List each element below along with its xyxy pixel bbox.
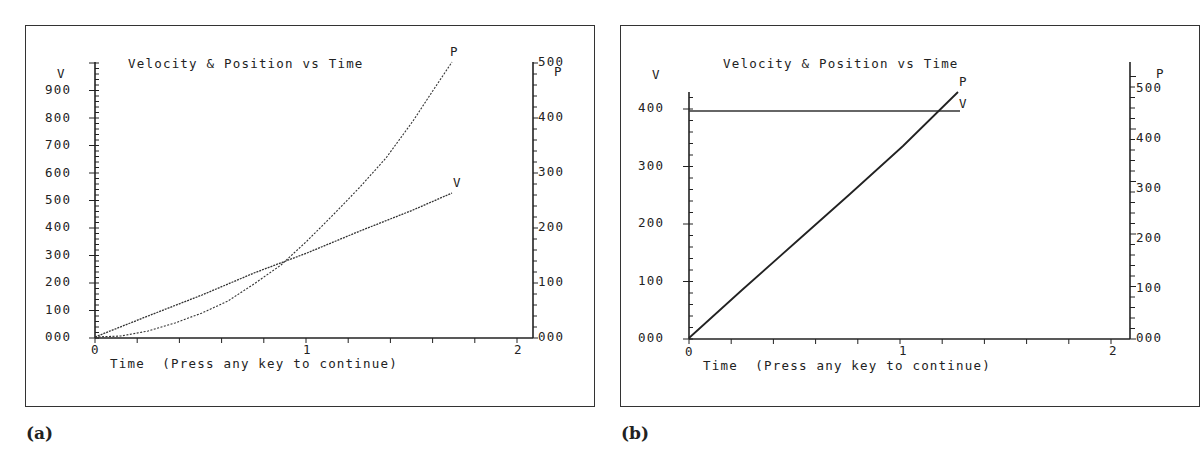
tick-label: 300 xyxy=(538,164,564,179)
tick-label: 2 xyxy=(514,342,523,357)
tick-label: 800 xyxy=(45,110,71,125)
tick-label: 0 xyxy=(685,344,694,359)
chart-b-position-line xyxy=(689,92,958,338)
tick-label: 100 xyxy=(1136,280,1162,295)
chart-b-v-label: V xyxy=(959,96,968,111)
tick-label: 000 xyxy=(1136,330,1162,345)
chart-a-velocity-line xyxy=(95,193,452,337)
chart-a: Velocity & Position vs Time V P 000 100 … xyxy=(45,44,564,371)
chart-b-x-label: Time (Press any key to continue) xyxy=(703,358,991,373)
tick-label: 0 xyxy=(91,342,100,357)
tick-label: 2 xyxy=(1109,343,1118,358)
tick-label: 300 xyxy=(45,247,71,262)
tick-label: 500 xyxy=(538,54,564,69)
chart-a-x-label: Time (Press any key to continue) xyxy=(110,356,398,371)
chart-a-p-label: P xyxy=(450,44,459,59)
tick-label: 200 xyxy=(45,274,71,289)
tick-label: 400 xyxy=(538,109,564,124)
tick-label: 000 xyxy=(638,330,664,345)
tick-label: 100 xyxy=(538,274,564,289)
tick-label: 200 xyxy=(1136,230,1162,245)
chart-b-left-ticks: 000 100 200 300 400 xyxy=(638,100,664,345)
tick-label: 300 xyxy=(638,158,664,173)
chart-b-p-label: P xyxy=(959,74,968,89)
tick-label: 300 xyxy=(1136,180,1162,195)
chart-a-left-axis-label: V xyxy=(57,66,66,81)
chart-b-title: Velocity & Position vs Time xyxy=(723,56,959,71)
chart-b-right-ticks: 000 100 200 300 400 500 xyxy=(1136,80,1162,345)
tick-label: 400 xyxy=(638,100,664,115)
tick-label: 100 xyxy=(45,302,71,317)
tick-label: 400 xyxy=(45,219,71,234)
chart-a-position-curve xyxy=(95,62,452,337)
tick-label: 000 xyxy=(45,329,71,344)
tick-label: 200 xyxy=(538,219,564,234)
tick-label: 1 xyxy=(303,342,312,357)
tick-label: 400 xyxy=(1136,130,1162,145)
chart-b-x-ticks: 0 1 2 xyxy=(685,343,1118,359)
tick-label: 000 xyxy=(538,329,564,344)
chart-a-v-label: V xyxy=(453,175,462,190)
chart-b: Velocity & Position vs Time V P 000 100 … xyxy=(638,56,1165,373)
chart-a-left-ticks: 000 100 200 300 400 500 600 700 800 900 xyxy=(45,82,71,344)
tick-label: 100 xyxy=(638,273,664,288)
chart-a-right-ticks: 000 100 200 300 400 500 xyxy=(538,54,564,344)
tick-label: 600 xyxy=(45,165,71,180)
chart-a-title: Velocity & Position vs Time xyxy=(128,56,364,71)
tick-label: 700 xyxy=(45,137,71,152)
tick-label: 500 xyxy=(45,192,71,207)
tick-label: 1 xyxy=(899,343,908,358)
chart-b-right-axis-label: P xyxy=(1156,66,1165,81)
tick-label: 900 xyxy=(45,82,71,97)
chart-a-x-ticks: 0 1 2 xyxy=(91,342,523,357)
chart-b-left-axis-label: V xyxy=(652,67,661,82)
tick-label: 500 xyxy=(1136,80,1162,95)
tick-label: 200 xyxy=(638,215,664,230)
